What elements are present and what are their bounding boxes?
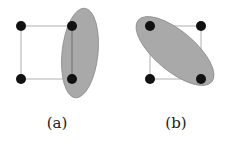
region-a xyxy=(57,6,102,99)
region-b xyxy=(125,5,224,97)
panel-b: (b) xyxy=(125,5,224,132)
node-a-bottom-right xyxy=(67,74,77,84)
node-a-top-left xyxy=(16,21,26,31)
panel-label-b: (b) xyxy=(165,114,186,132)
panel-label-a: (a) xyxy=(47,114,68,132)
node-a-top-right xyxy=(67,21,77,31)
node-b-bottom-right xyxy=(196,74,206,84)
node-b-top-right xyxy=(196,21,206,31)
node-b-top-left xyxy=(145,21,155,31)
node-a-bottom-left xyxy=(16,74,26,84)
panel-a: (a) xyxy=(16,6,103,132)
diagram-canvas: (a) (b) xyxy=(0,0,227,141)
node-b-bottom-left xyxy=(145,74,155,84)
